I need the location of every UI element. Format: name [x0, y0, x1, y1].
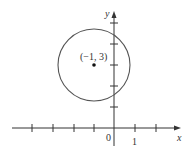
center-point-label: (−1, 3): [80, 51, 107, 63]
x-axis-label: x: [176, 132, 182, 143]
coordinate-plane: (−1, 3) y x 0 1: [0, 0, 193, 160]
center-point: [92, 63, 96, 67]
y-axis-label: y: [104, 8, 110, 19]
x-axis-arrow-icon: [174, 126, 181, 131]
x-tick-label-1: 1: [132, 136, 137, 147]
y-axis-arrow-icon: [112, 11, 117, 18]
origin-label: 0: [106, 132, 111, 143]
